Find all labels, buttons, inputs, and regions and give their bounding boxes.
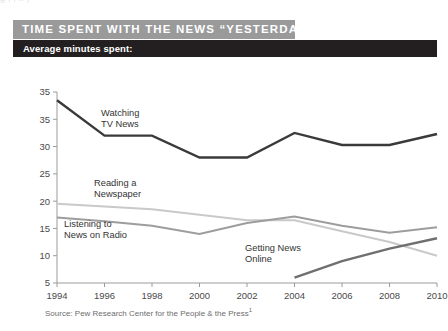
svg-text:25: 25: [39, 168, 50, 179]
svg-text:10: 10: [39, 250, 50, 261]
series-label-tv-news: Watching TV News: [101, 108, 139, 130]
source-note: Source: Pew Research Center for the Peop…: [45, 307, 252, 318]
x-axis-tick-labels: 199419961998200020022004200620082010: [46, 290, 447, 301]
source-text: Source: Pew Research Center for the Peop…: [45, 309, 249, 318]
svg-text:35: 35: [39, 86, 50, 97]
svg-text:35: 35: [39, 114, 50, 125]
infographic-page: g , , ff ) TIME SPENT WITH THE NEWS “YES…: [0, 0, 448, 331]
svg-text:20: 20: [39, 196, 50, 207]
series-label-newspaper: Reading a Newspaper: [94, 178, 141, 200]
svg-text:2002: 2002: [236, 290, 257, 301]
svg-text:2008: 2008: [379, 290, 400, 301]
svg-text:30: 30: [39, 141, 50, 152]
svg-text:1996: 1996: [94, 290, 115, 301]
svg-text:1994: 1994: [46, 290, 67, 301]
svg-text:5: 5: [45, 277, 50, 288]
svg-text:2000: 2000: [189, 290, 210, 301]
source-footnote-marker: 1: [249, 307, 252, 313]
series-label-online: Getting News Online: [245, 243, 301, 265]
svg-text:2010: 2010: [426, 290, 447, 301]
svg-text:2004: 2004: [284, 290, 305, 301]
series-label-radio: Listening to News on Radio: [64, 219, 127, 241]
svg-text:1998: 1998: [141, 290, 162, 301]
svg-text:2006: 2006: [331, 290, 352, 301]
svg-text:15: 15: [39, 223, 50, 234]
y-axis-tick-labels: 510152025303535: [39, 86, 50, 288]
line-chart: 510152025303535 199419961998200020022004…: [0, 0, 448, 331]
chart-svg: 510152025303535 199419961998200020022004…: [0, 0, 448, 331]
